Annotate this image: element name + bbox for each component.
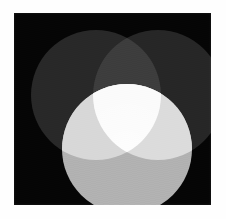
venn-diagram-canvas [14,13,211,205]
figure-root [0,0,226,219]
